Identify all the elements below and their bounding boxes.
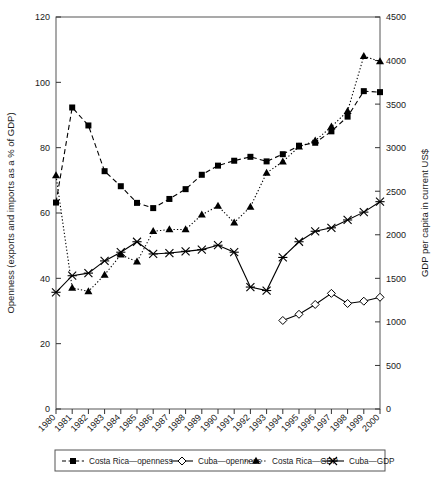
right-tick-label: 4000 <box>386 56 406 66</box>
filled-square-icon <box>70 458 76 464</box>
left-tick-label: 100 <box>35 78 50 88</box>
right-tick-label: 1500 <box>386 274 406 284</box>
x-tick-label: 1996 <box>295 412 316 433</box>
right-tick-label: 2500 <box>386 187 406 197</box>
right-tick-label: 0 <box>386 404 391 414</box>
right-tick-label: 1000 <box>386 317 406 327</box>
right-tick-label: 3500 <box>386 100 406 110</box>
legend-label: Costa Rica—GDP <box>272 457 339 466</box>
legend-label: Costa Rica—openness <box>89 457 173 466</box>
x-tick-label: 1991 <box>214 412 235 433</box>
x-tick-label: 2000 <box>360 412 381 433</box>
data-point-marker <box>361 88 367 94</box>
x-tick-label: 1981 <box>52 412 73 433</box>
x-tick-label: 1988 <box>166 412 187 433</box>
right-tick-label: 4500 <box>386 12 406 22</box>
right-tick-label: 500 <box>386 361 401 371</box>
x-tick-label: 1998 <box>328 412 349 433</box>
data-point-marker <box>183 186 189 192</box>
chart-figure: 020406080100120 050010001500200025003000… <box>0 0 439 478</box>
data-point-marker <box>377 89 383 95</box>
data-point-marker <box>166 196 172 202</box>
x-tick-label: 1990 <box>198 412 219 433</box>
data-point-marker <box>231 158 237 164</box>
x-tick-label: 1980 <box>36 412 57 433</box>
chart-legend: Costa Rica—opennessCuba—opennessCosta Ri… <box>55 450 395 471</box>
data-point-marker <box>134 200 140 206</box>
left-tick-label: 80 <box>40 143 50 153</box>
x-tick-label: 1989 <box>182 412 203 433</box>
x-tick-label: 1992 <box>231 412 252 433</box>
left-tick-label: 40 <box>40 274 50 284</box>
legend-label: Cuba—openness <box>198 457 261 466</box>
data-point-marker <box>69 104 75 110</box>
data-point-marker <box>199 172 205 178</box>
plot-area-frame <box>56 17 380 409</box>
right-axis-title: GDP per capita in current US$ <box>419 148 430 277</box>
x-tick-label: 1985 <box>117 412 138 433</box>
left-tick-label: 20 <box>40 339 50 349</box>
legend-label: Cuba—GDP <box>349 457 395 466</box>
data-point-marker <box>118 183 124 189</box>
x-tick-label: 1982 <box>69 412 90 433</box>
x-tick-label: 1994 <box>263 412 284 433</box>
data-point-marker <box>247 154 253 160</box>
data-point-marker <box>280 151 286 157</box>
data-point-marker <box>85 122 91 128</box>
x-tick-label: 1997 <box>312 412 333 433</box>
x-tick-label: 1999 <box>344 412 365 433</box>
x-tick-label: 1983 <box>85 412 106 433</box>
data-point-marker <box>53 200 59 206</box>
data-point-marker <box>102 168 108 174</box>
data-point-marker <box>264 158 270 164</box>
x-tick-label: 1993 <box>247 412 268 433</box>
left-axis-title: Openness (exports and imports as a % of … <box>5 112 16 313</box>
data-point-marker <box>215 163 221 169</box>
x-tick-label: 1995 <box>279 412 300 433</box>
data-point-marker <box>345 114 351 120</box>
x-axis-ticks: 1980198119821983198419851986198719881989… <box>36 409 381 434</box>
right-tick-label: 2000 <box>386 230 406 240</box>
x-tick-label: 1987 <box>150 412 171 433</box>
data-point-marker <box>150 205 156 211</box>
x-tick-label: 1984 <box>101 412 122 433</box>
right-tick-label: 3000 <box>386 143 406 153</box>
left-tick-label: 60 <box>40 208 50 218</box>
x-tick-label: 1986 <box>133 412 154 433</box>
left-tick-label: 120 <box>35 12 50 22</box>
openness-gdp-line-chart: 020406080100120 050010001500200025003000… <box>0 0 439 478</box>
